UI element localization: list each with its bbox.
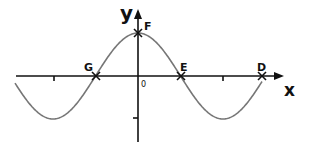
- x-axis-arrow-icon: [274, 72, 284, 80]
- x-axis: [16, 72, 284, 81]
- point-label-D: D: [257, 61, 266, 74]
- point-label-F: F: [144, 20, 152, 33]
- x-axis-label: x: [284, 80, 295, 100]
- y-axis-label: y: [120, 1, 133, 25]
- y-axis-arrow-icon: [134, 9, 142, 19]
- origin-label: 0: [141, 80, 146, 89]
- point-label-G: G: [84, 61, 93, 74]
- cosine-graph-diagram: y x 0 F G E D: [0, 0, 309, 149]
- point-label-E: E: [180, 61, 188, 74]
